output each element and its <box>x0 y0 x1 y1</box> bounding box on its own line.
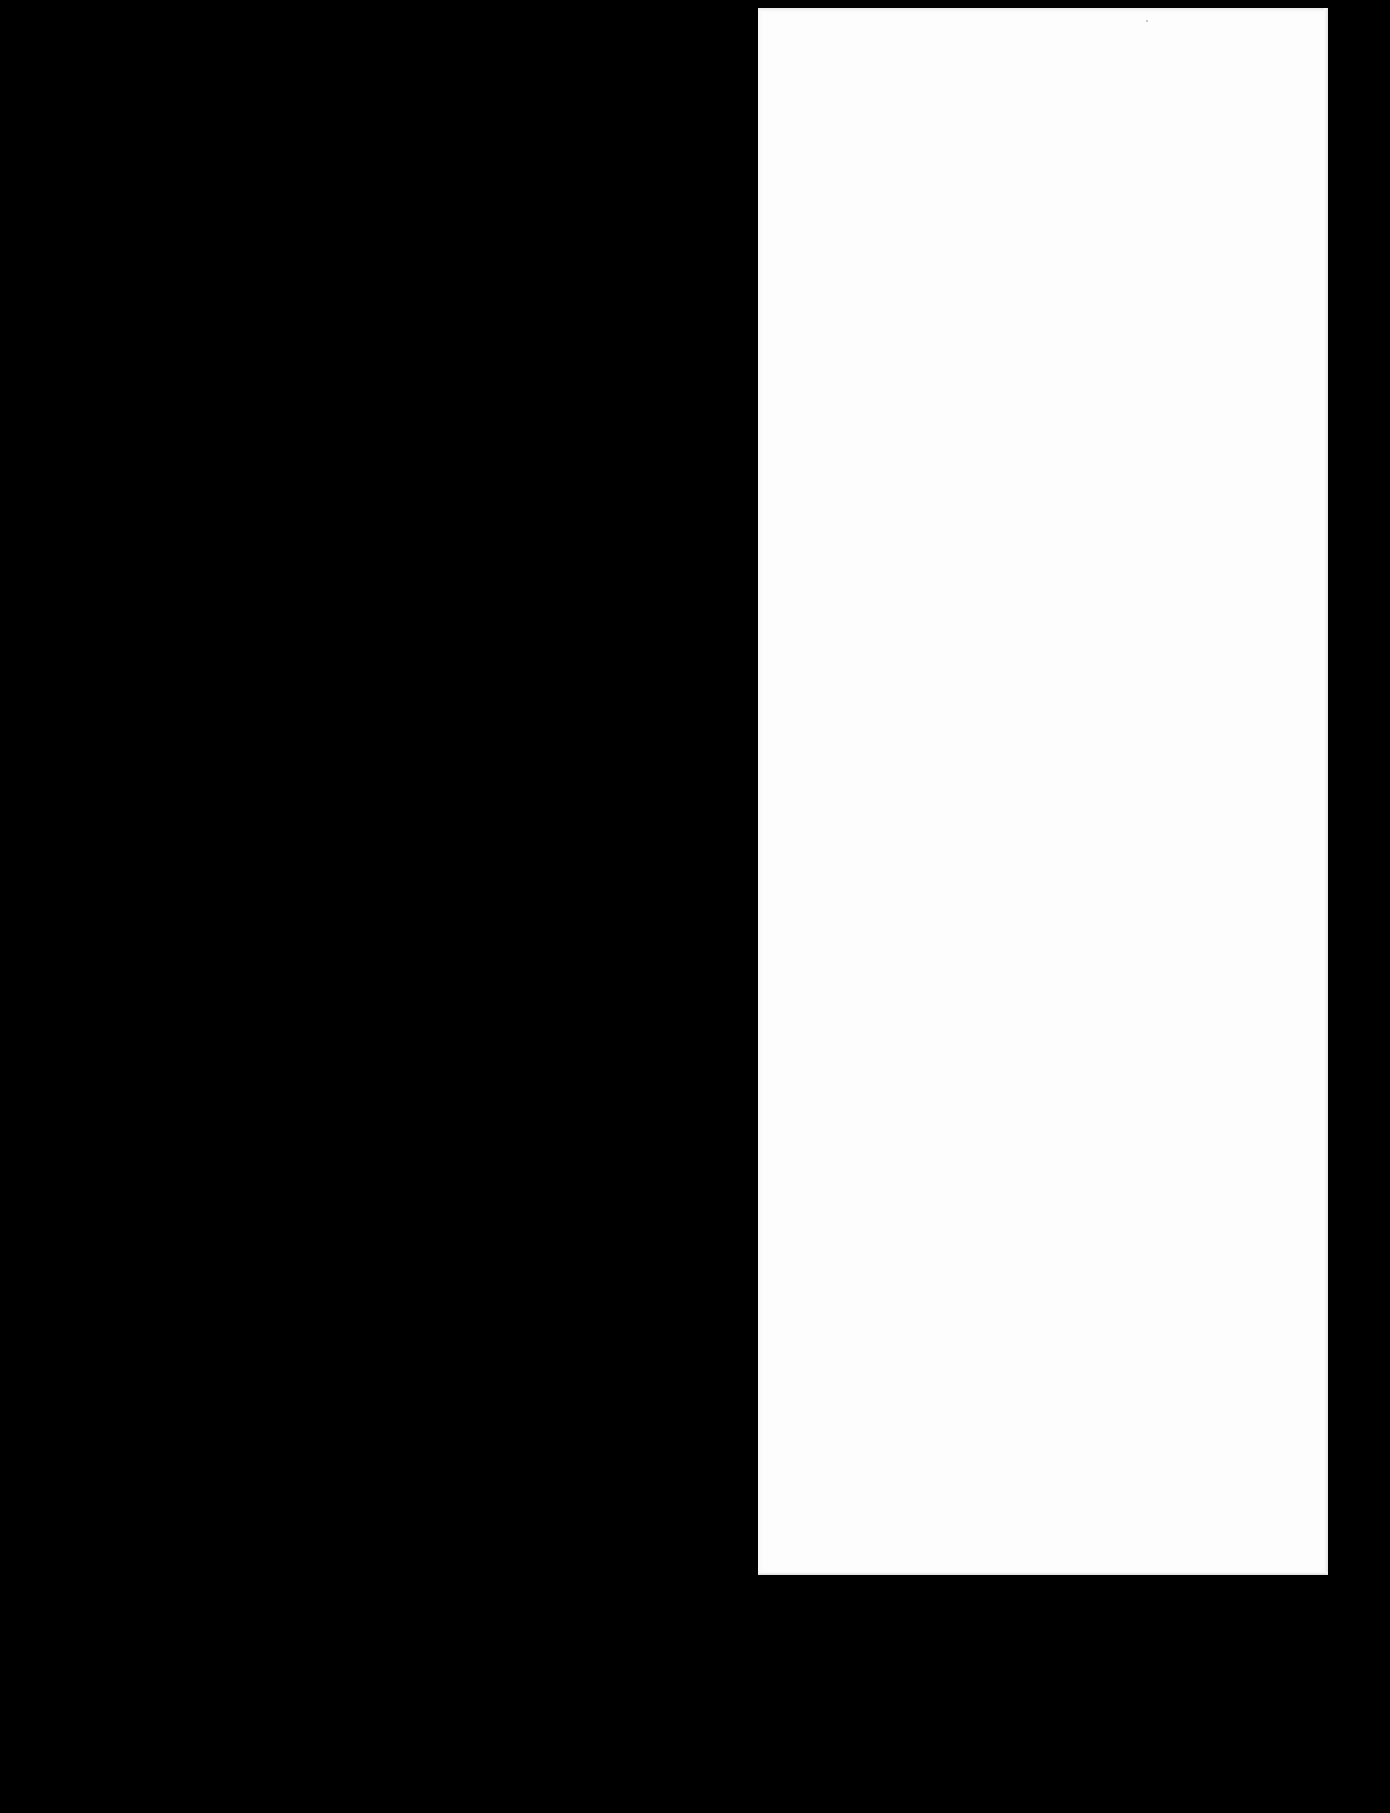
page-bottom-edge <box>758 1572 1328 1575</box>
page-content <box>798 48 1288 1535</box>
page-right-edge <box>1324 8 1328 1575</box>
scan-speck <box>1146 20 1148 22</box>
blank-page <box>758 8 1328 1575</box>
scan-background <box>0 0 1390 1813</box>
page-top-edge <box>758 8 1328 12</box>
